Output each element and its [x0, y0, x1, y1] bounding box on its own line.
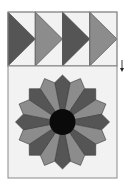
flying-geese-strip — [8, 12, 117, 66]
down-arrow-icon — [120, 60, 124, 72]
quilt-diagram — [0, 0, 130, 186]
arrow-head — [120, 68, 124, 72]
plate-center-circle — [50, 109, 76, 135]
dresden-plate-block — [8, 66, 117, 178]
